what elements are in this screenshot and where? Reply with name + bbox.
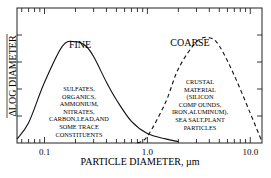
annotation-line: SEA SALT,PLANT: [175, 116, 225, 123]
annotation-line: COMP OUNDS,: [179, 101, 222, 108]
annotation-line: NITRATES,: [63, 108, 95, 115]
fine-mode-label: FINE: [69, 39, 91, 50]
plot-frame: [17, 8, 262, 143]
annotation-line: CRUSTAL: [186, 78, 214, 85]
coarse-mode-label: COARSE: [170, 37, 209, 48]
x-tick-label: 10.0: [242, 147, 258, 157]
x-tick-label: 0.1: [39, 147, 50, 157]
annotation-line: SOME TRACE: [59, 123, 99, 130]
annotation-line: CONSTITUENTS: [56, 131, 103, 138]
annotation-line: CARBON,LEAD,AND: [49, 115, 109, 122]
particle-size-distribution-chart: 0.11.010.0 FINE COARSE SULFATES,ORGANICS…: [0, 0, 271, 178]
annotation-line: MATERIAL: [184, 86, 216, 93]
annotation-line: ORGANICS,: [62, 93, 96, 100]
annotation-line: SULFATES,: [63, 85, 95, 92]
x-axis-title: PARTICLE DIAMETER, µm: [81, 156, 200, 167]
fine-mode-constituents: SULFATES,ORGANICS,AMMONIUM,NITRATES,CARB…: [49, 85, 109, 138]
y-axis-title: ΔLOG DIAMETER: [7, 35, 18, 116]
annotation-line: PARTICLES: [184, 124, 217, 131]
y-axis-ticks: [17, 35, 262, 116]
annotation-line: AMMONIUM,: [60, 100, 99, 107]
coarse-mode-constituents: CRUSTALMATERIAL(SILICONCOMP OUNDS,IRON,A…: [172, 78, 228, 131]
